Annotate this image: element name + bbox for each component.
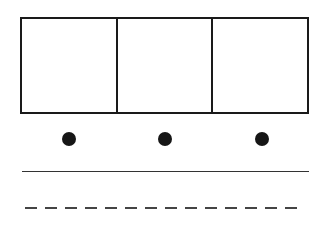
box-cell-1 xyxy=(22,19,118,112)
three-box-row xyxy=(20,17,309,114)
dot-2 xyxy=(158,132,172,146)
box-cell-2 xyxy=(118,19,214,112)
solid-writing-line xyxy=(22,171,309,172)
box-cell-3 xyxy=(213,19,307,112)
dot-3 xyxy=(255,132,269,146)
dot-1 xyxy=(62,132,76,146)
dashed-writing-line xyxy=(25,207,305,209)
